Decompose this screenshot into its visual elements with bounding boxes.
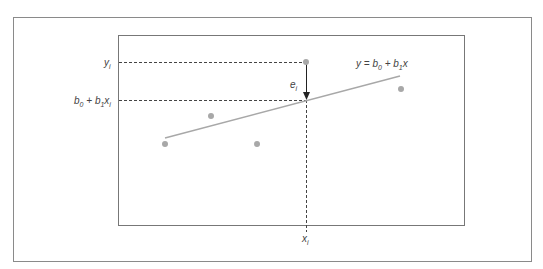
data-point (208, 113, 214, 119)
residual-arrow-head-icon (303, 92, 310, 100)
plot-area (119, 36, 465, 226)
outer-frame (14, 18, 532, 262)
data-point (398, 86, 404, 92)
regression-equation-label: y = b0 + b1x (355, 58, 409, 71)
regression-line (165, 76, 400, 138)
residual-label: ei (290, 79, 298, 92)
regression-diagram: yi b0 + b1xi ei xi y = b0 + b1x (0, 0, 543, 269)
data-point (162, 141, 168, 147)
data-points (162, 59, 404, 147)
data-point (254, 141, 260, 147)
yi-label: yi (103, 57, 111, 70)
fitted-value-label: b0 + b1xi (74, 95, 111, 108)
xi-label: xi (301, 233, 309, 246)
data-point (303, 59, 309, 65)
